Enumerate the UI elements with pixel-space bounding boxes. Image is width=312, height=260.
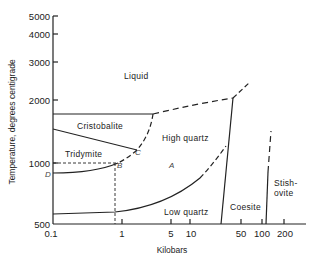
y-tick-2000: 2000 [29, 95, 50, 106]
coesite-stishovite-dashed [268, 131, 271, 172]
y-tick-4000: 4000 [29, 29, 50, 40]
y-tick-1000: 1000 [29, 158, 50, 169]
x-tick-0.1: 0.1 [44, 228, 57, 239]
liquid-extension-dashed [233, 83, 249, 98]
region-tridymite: Tridymite [65, 149, 102, 159]
liquid-highquartz-dashed [153, 98, 233, 114]
y-tick-5000: 5000 [29, 11, 50, 22]
point-c: C [135, 148, 141, 157]
point-a: A [168, 161, 174, 170]
x-tick-labels: 0.1 1 5 10 50 100 200 [44, 228, 293, 239]
x-tick-5: 5 [168, 228, 173, 239]
region-stishovite-line1: Stish- [274, 178, 298, 188]
region-high-quartz: High quartz [162, 133, 209, 143]
cristobalite-tridymite-line [53, 129, 137, 150]
region-liquid: Liquid [124, 71, 149, 81]
y-tick-labels: 5000 4000 3000 2000 1000 500 [29, 11, 50, 230]
point-d: D [45, 170, 51, 179]
x-tick-10: 10 [186, 228, 197, 239]
x-tick-50: 50 [236, 228, 247, 239]
high-low-quartz-dashed [200, 146, 226, 178]
region-labels: Liquid Cristobalite Tridymite High quart… [65, 71, 298, 217]
region-stishovite-line2: ovite [274, 188, 293, 198]
tridymite-lowquartz-line [53, 163, 118, 173]
region-cristobalite: Cristobalite [77, 121, 123, 131]
x-tick-200: 200 [277, 228, 293, 239]
coesite-stishovite-line [266, 172, 268, 224]
x-axis-title: Kilobars [157, 245, 188, 255]
x-tick-100: 100 [254, 228, 270, 239]
region-coesite: Coesite [230, 202, 261, 212]
y-axis-title: Temperature, degrees centigrade [7, 59, 17, 184]
region-low-quartz: Low quartz [164, 207, 209, 217]
phase-diagram: 5000 4000 3000 2000 1000 500 0.1 1 5 10 … [0, 0, 312, 260]
point-b: B [117, 161, 123, 170]
y-tick-3000: 3000 [29, 57, 50, 68]
x-tick-1: 1 [119, 228, 124, 239]
